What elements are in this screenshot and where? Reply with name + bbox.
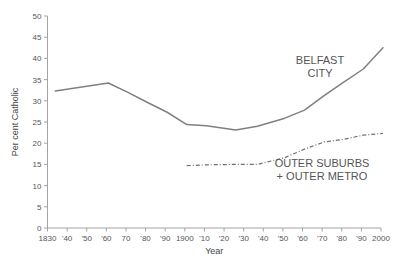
chart-container: 05101520253035404550 1830'40'50'6070'80'…: [0, 0, 396, 265]
y-tick-label: 30: [33, 97, 42, 106]
x-tick-label: '50: [82, 234, 93, 243]
y-tick-label: 5: [37, 203, 42, 212]
y-tick-label: 45: [33, 33, 42, 42]
y-tick-label: 0: [37, 224, 42, 233]
series-label-outer-suburbs-line1: OUTER SUBURBS: [275, 157, 370, 169]
x-tick-label: '20: [219, 234, 230, 243]
x-tick-label: '80: [337, 234, 348, 243]
x-axis-title: Year: [205, 246, 223, 256]
y-tick-label: 35: [33, 76, 42, 85]
y-tick-label: 25: [33, 118, 42, 127]
y-axis-tick-labels: 05101520253035404550: [33, 12, 42, 233]
series-label-belfast-city-line1: BELFAST: [296, 54, 345, 66]
x-axis-tick-labels: 1830'40'50'6070'80'901900'10'20'30'40'50…: [39, 234, 391, 243]
y-tick-label: 20: [33, 139, 42, 148]
x-tick-label: '40: [62, 234, 73, 243]
y-tick-label: 15: [33, 160, 42, 169]
series-label-belfast-city-line2: CITY: [307, 67, 333, 79]
x-tick-label: '30: [238, 234, 249, 243]
x-tick-label: 2000: [372, 234, 390, 243]
x-tick-label: '70: [317, 234, 328, 243]
y-tick-label: 40: [33, 54, 42, 63]
y-axis-title: Per cent Catholic: [10, 87, 20, 156]
x-tick-label: 70: [122, 234, 131, 243]
x-tick-label: 1830: [39, 234, 57, 243]
y-tick-label: 10: [33, 182, 42, 191]
x-tick-label: '10: [199, 234, 210, 243]
y-tick-label: 50: [33, 12, 42, 21]
x-tick-label: '60: [297, 234, 308, 243]
x-tick-label: '90: [356, 234, 367, 243]
series-label-outer-suburbs-line2: + OUTER METRO: [277, 170, 368, 182]
x-tick-label: '60: [101, 234, 112, 243]
x-tick-label: '80: [140, 234, 151, 243]
y-axis-tick-marks: [44, 16, 48, 228]
line-chart: 05101520253035404550 1830'40'50'6070'80'…: [0, 0, 396, 265]
x-axis-tick-marks: [48, 228, 382, 232]
x-tick-label: '40: [258, 234, 269, 243]
x-tick-label: '50: [278, 234, 289, 243]
x-tick-label: 1900: [176, 234, 194, 243]
x-tick-label: '90: [160, 234, 171, 243]
